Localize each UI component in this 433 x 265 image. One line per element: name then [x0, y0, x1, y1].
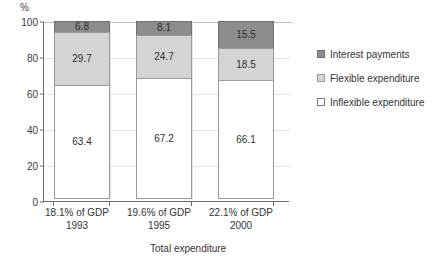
chart-legend: Interest payments Flexible expenditure I…: [317, 42, 433, 114]
x-category-year-2000: 2000: [185, 219, 297, 232]
bar-segment-inflexible-1993[interactable]: 63.4: [54, 85, 110, 199]
bar-group: 6.8 29.7 63.4 8.1 24.7 67.2: [44, 22, 289, 201]
bar-segment-inflexible-2000[interactable]: 66.1: [218, 80, 274, 199]
bar-segment-inflexible-1995[interactable]: 67.2: [136, 78, 192, 199]
legend-item-flexible-expenditure[interactable]: Flexible expenditure: [317, 66, 433, 90]
table-row[interactable]: 15.5 18.5 66.1: [218, 21, 274, 201]
legend-swatch-icon-interest-payments: [317, 50, 325, 58]
legend-label-flexible-expenditure: Flexible expenditure: [330, 73, 420, 84]
bar-value-interest-2000: 15.5: [236, 30, 255, 40]
bar-value-inflexible-2000: 66.1: [236, 135, 255, 145]
legend-label-interest-payments: Interest payments: [330, 49, 409, 60]
bar-segment-flexible-2000[interactable]: 18.5: [218, 48, 274, 81]
bar-segment-interest-1995[interactable]: 8.1: [136, 21, 192, 36]
y-tick-label-20: 20: [27, 161, 38, 172]
bar-segment-flexible-1995[interactable]: 24.7: [136, 35, 192, 79]
table-row[interactable]: 6.8 29.7 63.4: [54, 21, 110, 201]
plot-area: 100 80 60 40 20 0 6.8 29.7 63.4: [43, 22, 289, 202]
table-row[interactable]: 8.1 24.7 67.2: [136, 21, 192, 201]
x-category-label-2000: 22.1% of GDP 2000: [185, 206, 297, 232]
y-tick-label-80: 80: [27, 53, 38, 64]
y-axis-unit-label: %: [20, 2, 29, 13]
bar-value-flexible-2000: 18.5: [236, 60, 255, 70]
bar-value-inflexible-1993: 63.4: [72, 137, 91, 147]
y-tick-label-100: 100: [21, 17, 38, 28]
bar-segment-flexible-1993[interactable]: 29.7: [54, 32, 110, 85]
bar-value-flexible-1993: 29.7: [72, 54, 91, 64]
legend-swatch-icon-inflexible-expenditure: [317, 98, 325, 106]
legend-label-inflexible-expenditure: Inflexible expenditure: [330, 97, 425, 108]
legend-swatch-icon-flexible-expenditure: [317, 74, 325, 82]
legend-item-inflexible-expenditure[interactable]: Inflexible expenditure: [317, 90, 433, 114]
bar-segment-interest-2000[interactable]: 15.5: [218, 21, 274, 49]
x-axis-title: Total expenditure: [150, 243, 226, 254]
y-tick-label-40: 40: [27, 125, 38, 136]
y-tick-label-60: 60: [27, 89, 38, 100]
bar-value-interest-1993: 6.8: [75, 22, 89, 32]
stacked-bar-chart-figure: % 100 80 60 40 20 0 6.8: [0, 0, 433, 265]
bar-value-inflexible-1995: 67.2: [154, 134, 173, 144]
legend-item-interest-payments[interactable]: Interest payments: [317, 42, 433, 66]
x-category-gdp-2000: 22.1% of GDP: [185, 206, 297, 219]
bar-value-interest-1995: 8.1: [157, 23, 171, 33]
bar-value-flexible-1995: 24.7: [154, 52, 173, 62]
y-tick-mark-0: [40, 202, 44, 203]
